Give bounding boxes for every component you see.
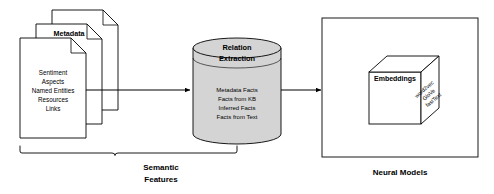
cylinder-item-3: Facts from Text bbox=[217, 114, 258, 120]
cylinder-item-0: Metadata Facts bbox=[216, 87, 257, 93]
diagram-canvas: Metadata Sentiment Aspects Named Entitie… bbox=[0, 0, 494, 194]
metadata-document-item-4: Links bbox=[46, 105, 61, 112]
metadata-document-item-3: Resources bbox=[38, 96, 68, 103]
metadata-document-title: Metadata bbox=[53, 29, 85, 38]
cylinder-title-line-2: Extraction bbox=[219, 54, 256, 63]
relation-extraction-cylinder: Relation Extraction Metadata Facts Facts… bbox=[193, 38, 281, 144]
metadata-document-item-2: Named Entities bbox=[32, 87, 75, 94]
cylinder-item-2: Inferred Facts bbox=[218, 105, 255, 111]
semantic-features-brace: Semantic Features bbox=[20, 146, 237, 184]
semantic-features-label-line-1: Semantic bbox=[143, 163, 179, 172]
neural-models-panel: Embeddings word2vec GloVe fastText Neura… bbox=[322, 18, 478, 177]
metadata-document-sheet-front: Sentiment Aspects Named Entities Resourc… bbox=[20, 38, 86, 138]
diagram-svg: Metadata Sentiment Aspects Named Entitie… bbox=[0, 0, 494, 194]
embeddings-cube-front-label: Embeddings bbox=[374, 75, 416, 83]
embeddings-cube: Embeddings word2vec GloVe fastText bbox=[369, 56, 444, 124]
semantic-features-label-line-2: Features bbox=[144, 175, 178, 184]
metadata-document-item-1: Aspects bbox=[42, 78, 64, 86]
neural-models-caption: Neural Models bbox=[373, 168, 428, 177]
metadata-document-item-0: Sentiment bbox=[39, 69, 68, 76]
cylinder-title-line-1: Relation bbox=[222, 43, 252, 52]
cylinder-item-1: Facts from KB bbox=[218, 96, 256, 102]
